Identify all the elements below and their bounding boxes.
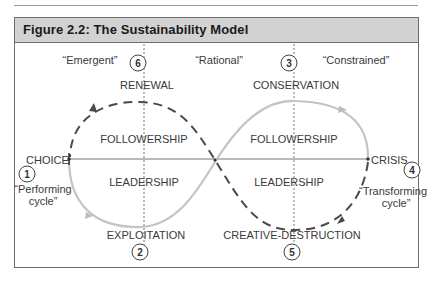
- sustainability-diagram: [0, 0, 435, 282]
- transforming-cycle-line2: cycle”: [382, 197, 411, 209]
- column-label-rational: “Rational”: [195, 54, 243, 66]
- transforming-curve: [70, 102, 368, 230]
- performing-cycle-line1: “Performing: [14, 183, 71, 195]
- stage-crisis-label: CRISIS: [371, 154, 408, 166]
- transforming-cycle-line1: “Transforming: [359, 185, 427, 197]
- stage-4-marker: 4: [404, 162, 421, 179]
- stage-choice-label: CHOICE: [26, 154, 69, 166]
- stage-3-marker: 3: [281, 55, 298, 72]
- stage-5-marker: 5: [284, 244, 301, 261]
- quadrant-left-followership: FOLLOWERSHIP: [100, 133, 187, 145]
- stage-exploitation-label: EXPLOITATION: [107, 229, 185, 241]
- stage-renewal-label: RENEWAL: [120, 79, 174, 91]
- stage-1-marker: 1: [19, 166, 36, 183]
- column-label-emergent: “Emergent”: [62, 54, 117, 66]
- quadrant-right-followership: FOLLOWERSHIP: [250, 133, 337, 145]
- performing-cycle-line2: cycle”: [29, 195, 58, 207]
- column-label-constrained: “Constrained”: [323, 54, 390, 66]
- quadrant-left-leadership: LEADERSHIP: [109, 176, 179, 188]
- quadrant-right-leadership: LEADERSHIP: [254, 176, 324, 188]
- stage-creative-destruction-label: CREATIVE-DESTRUCTION: [223, 229, 360, 241]
- stage-6-marker: 6: [130, 55, 147, 72]
- stage-2-marker: 2: [132, 244, 149, 261]
- stage-conservation-label: CONSERVATION: [253, 79, 339, 91]
